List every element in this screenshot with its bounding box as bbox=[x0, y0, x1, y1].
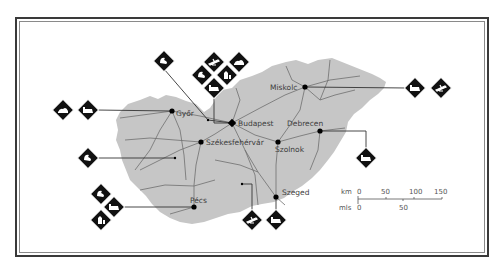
city-label-budapest: Budapest bbox=[238, 119, 274, 128]
city-dot-gyor[interactable] bbox=[169, 108, 174, 113]
thermal-bath-icon[interactable] bbox=[52, 99, 73, 120]
city-label-szekesfehervar: Székesfehérvár bbox=[206, 138, 265, 147]
scale-km-label: km bbox=[341, 188, 352, 196]
city-dot-szekesfehervar[interactable] bbox=[198, 139, 203, 144]
castle-icon[interactable] bbox=[265, 209, 286, 230]
scale-bar: km 0 50 100 150 mls 0 50 bbox=[339, 188, 447, 212]
castle-icon[interactable] bbox=[77, 99, 98, 120]
scale-km-tick-150: 150 bbox=[434, 188, 447, 196]
scale-mls-label: mls bbox=[339, 204, 352, 212]
city-dot-szolnok[interactable] bbox=[275, 139, 280, 144]
scale-km-tick-50: 50 bbox=[381, 188, 390, 196]
castle-icon[interactable] bbox=[404, 77, 425, 98]
city-dot-debrecen[interactable] bbox=[317, 128, 322, 133]
airport-icon[interactable] bbox=[241, 209, 262, 230]
city-label-szeged: Szeged bbox=[282, 188, 310, 197]
lake-icon[interactable] bbox=[153, 50, 174, 71]
city-label-gyor: Győr bbox=[176, 109, 195, 118]
hungary-map: Győr Budapest Miskolc Debrecen Székesfeh… bbox=[0, 0, 500, 269]
scale-mls-tick-0: 0 bbox=[357, 204, 361, 212]
city-label-szolnok: Szolnok bbox=[275, 145, 305, 154]
scale-mls-tick-50: 50 bbox=[399, 204, 408, 212]
city-dot-szeged[interactable] bbox=[273, 194, 278, 199]
city-dot-pecs[interactable] bbox=[191, 204, 196, 209]
lake-icon[interactable] bbox=[77, 147, 98, 168]
castle-icon[interactable] bbox=[355, 147, 376, 168]
scale-km-tick-0: 0 bbox=[357, 188, 361, 196]
city-dot-miskolc[interactable] bbox=[302, 84, 307, 89]
airport-icon[interactable] bbox=[430, 77, 451, 98]
city-label-debrecen: Debrecen bbox=[287, 119, 323, 128]
scale-km-tick-100: 100 bbox=[409, 188, 422, 196]
city-label-pecs: Pécs bbox=[190, 196, 207, 205]
city-label-miskolc: Miskolc bbox=[270, 83, 297, 92]
